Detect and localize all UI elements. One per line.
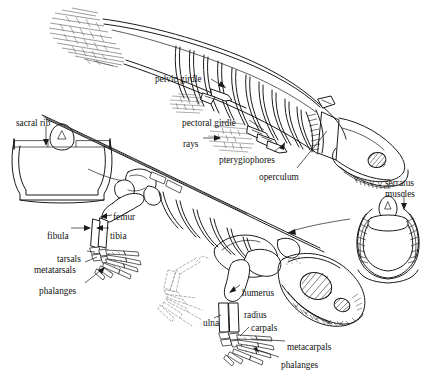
inset-sacral-rib — [12, 124, 112, 203]
label-tibia: tibia — [110, 231, 127, 241]
ulna — [219, 303, 229, 332]
label-metatarsals: metatarsals — [34, 265, 76, 275]
label-pelvic-girdle: pelvic girdle — [155, 74, 202, 84]
fish-pelvic-girdle — [201, 89, 232, 104]
label-rays: rays — [183, 139, 199, 149]
fish-pectoral-girdle — [247, 126, 287, 153]
tetrapod-naris — [332, 296, 351, 314]
ghost-fore-limb — [158, 256, 208, 326]
fish-caudal-fin — [49, 8, 124, 67]
figure-canvas: .k{fill:none;stroke:#1a1a1a;stroke-width… — [0, 0, 437, 378]
carpals — [219, 332, 242, 347]
label-phalanges-foot: phalanges — [39, 286, 76, 296]
inset-serratus — [357, 196, 419, 283]
label-radius: radius — [244, 310, 267, 320]
label-humerus: humerus — [242, 288, 274, 298]
label-serratus-l1: serratus — [385, 178, 414, 188]
tetrapod-pectoral-girdle — [214, 235, 300, 277]
fish-dorsal-finlet — [318, 96, 335, 108]
label-operculum: operculum — [259, 172, 299, 182]
label-serratus-l2: muscles — [385, 189, 415, 199]
fibula — [91, 219, 100, 248]
label-pterygiophores: pterygiophores — [219, 155, 275, 165]
label-carpals: carpals — [251, 323, 277, 333]
label-metacarpals: metacarpals — [287, 342, 331, 352]
fish-body-upper — [318, 103, 346, 139]
label-tarsals: tarsals — [57, 254, 81, 264]
tetrapod-jaw-texture — [352, 294, 362, 310]
leader-serratus-to-skeleton — [287, 219, 350, 235]
label-sacral-rib: sacral rib — [16, 118, 50, 128]
tetrapod-skull — [278, 253, 365, 326]
label-pectoral-girdle: pectoral girdle — [182, 118, 236, 128]
fish-operculum-hatching — [306, 110, 339, 160]
label-fibula: fibula — [47, 231, 69, 241]
label-phalanges-hand: phalanges — [281, 360, 318, 370]
radius — [229, 303, 239, 332]
label-ulna: ulna — [203, 318, 219, 328]
label-femur: femur — [113, 212, 135, 222]
